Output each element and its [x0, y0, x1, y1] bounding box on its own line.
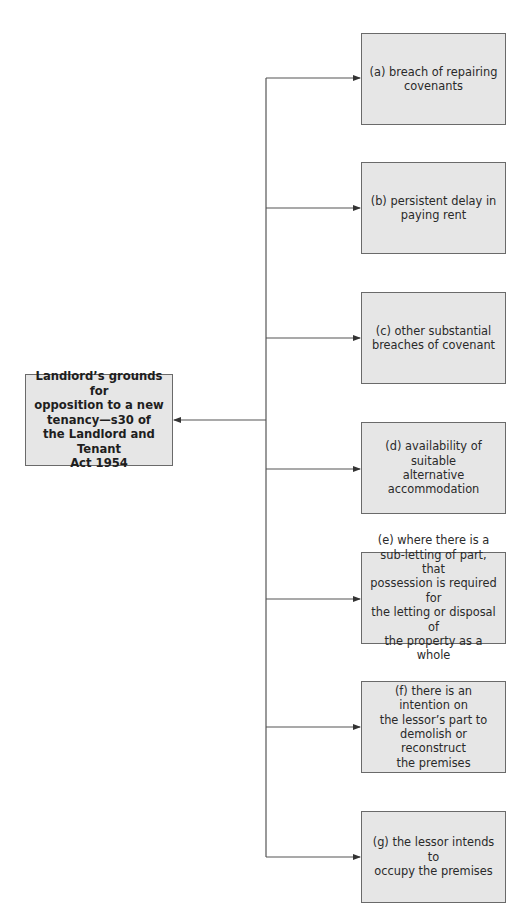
ground-box-d: (d) availability of suitable alternative…	[361, 422, 506, 514]
ground-box-e: (e) where there is a sub-letting of part…	[361, 552, 506, 644]
ground-line: (b) persistent delay in	[371, 194, 497, 208]
ground-text-d: (d) availability of suitable alternative…	[369, 439, 498, 497]
ground-line: (c) other substantial	[372, 324, 495, 338]
central-topic-text: Landlord’s grounds for opposition to a n…	[30, 369, 168, 471]
ground-line: accommodation	[369, 482, 498, 496]
ground-box-b: (b) persistent delay in paying rent	[361, 162, 506, 254]
ground-line: occupy the premises	[369, 864, 498, 878]
ground-line: the lessor’s part to	[369, 713, 498, 727]
ground-line: breaches of covenant	[372, 338, 495, 352]
ground-line: covenants	[370, 79, 498, 93]
ground-text-f: (f) there is an intention on the lessor’…	[369, 684, 498, 770]
ground-line: sub-letting of part, that	[369, 548, 498, 577]
ground-text-c: (c) other substantial breaches of covena…	[372, 324, 495, 353]
ground-line: possession is required for	[369, 576, 498, 605]
ground-line: (f) there is an intention on	[369, 684, 498, 713]
central-line: tenancy—s30 of	[30, 413, 168, 428]
ground-line: (d) availability of suitable	[369, 439, 498, 468]
ground-box-f: (f) there is an intention on the lessor’…	[361, 681, 506, 773]
ground-line: alternative	[369, 468, 498, 482]
ground-line: the premises	[369, 756, 498, 770]
ground-text-a: (a) breach of repairing covenants	[370, 65, 498, 94]
central-line: Act 1954	[30, 456, 168, 471]
central-line: opposition to a new	[30, 398, 168, 413]
ground-box-a: (a) breach of repairing covenants	[361, 33, 506, 125]
ground-text-g: (g) the lessor intends to occupy the pre…	[369, 835, 498, 878]
ground-text-e: (e) where there is a sub-letting of part…	[369, 533, 498, 663]
ground-box-c: (c) other substantial breaches of covena…	[361, 292, 506, 384]
ground-line: (a) breach of repairing	[370, 65, 498, 79]
legal-grounds-diagram: Landlord’s grounds for opposition to a n…	[0, 0, 528, 922]
ground-line: demolish or reconstruct	[369, 727, 498, 756]
ground-line: (e) where there is a	[369, 533, 498, 547]
ground-line: the property as a whole	[369, 634, 498, 663]
ground-line: (g) the lessor intends to	[369, 835, 498, 864]
ground-line: the letting or disposal of	[369, 605, 498, 634]
central-line: the Landlord and Tenant	[30, 427, 168, 456]
ground-line: paying rent	[371, 208, 497, 222]
ground-text-b: (b) persistent delay in paying rent	[371, 194, 497, 223]
central-line: Landlord’s grounds for	[30, 369, 168, 398]
central-topic-box: Landlord’s grounds for opposition to a n…	[25, 374, 173, 466]
ground-box-g: (g) the lessor intends to occupy the pre…	[361, 811, 506, 903]
